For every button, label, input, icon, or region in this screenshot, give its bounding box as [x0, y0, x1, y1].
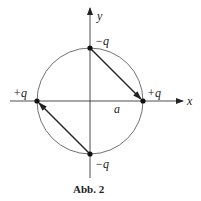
figure-caption: Abb. 2	[73, 183, 105, 195]
charge-bottom-label: −q	[95, 157, 109, 171]
charge-right	[140, 98, 145, 103]
radius-label: a	[114, 102, 120, 116]
dipole-diagram: y x −q +q −q +q a Abb. 2	[0, 0, 201, 201]
charge-top-label: −q	[95, 34, 109, 48]
vector-bottom-to-left	[39, 103, 89, 153]
charge-left-label: +q	[13, 86, 27, 100]
x-axis-label: x	[186, 94, 193, 108]
charge-left	[34, 98, 39, 103]
charge-bottom	[87, 151, 92, 156]
vector-top-to-right	[91, 49, 141, 99]
y-axis-label: y	[96, 9, 103, 23]
charge-right-label: +q	[147, 86, 161, 100]
charge-top	[87, 45, 92, 50]
